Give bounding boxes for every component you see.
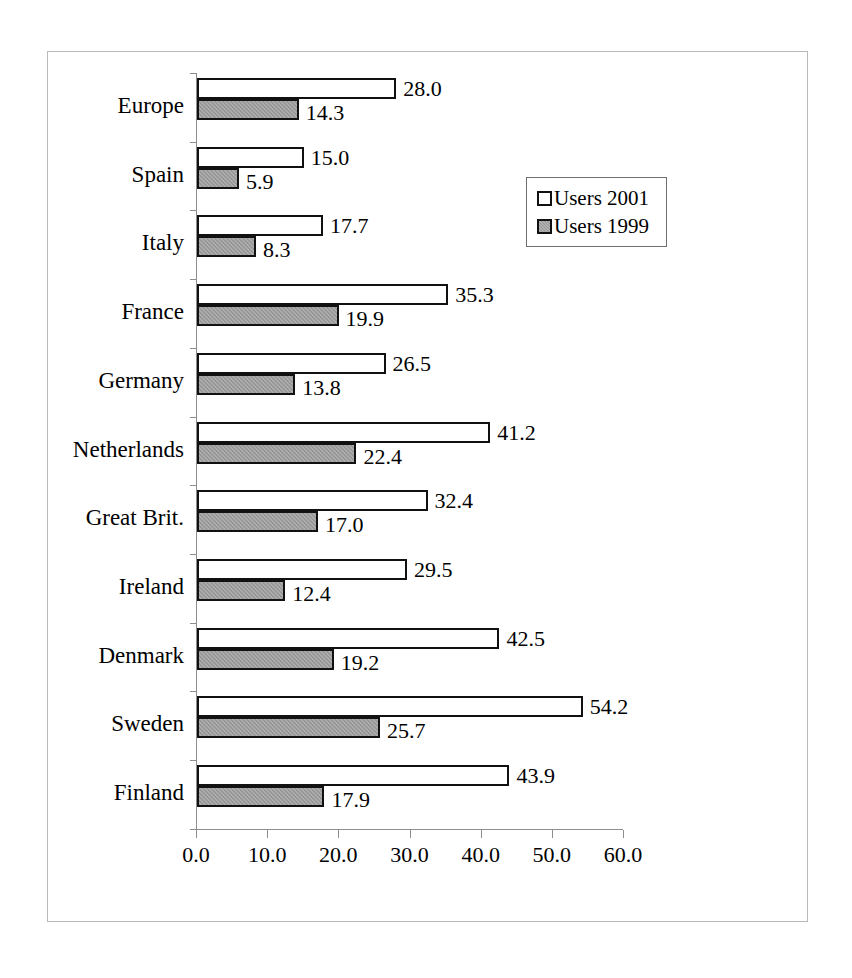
bar-users-1999 <box>197 305 339 326</box>
bar-value-label-users-2001: 43.9 <box>516 764 555 788</box>
legend-swatch-icon-users-1999 <box>537 219 552 234</box>
category-label: Netherlands <box>0 435 184 465</box>
bar-users-2001 <box>197 559 407 580</box>
bar-value-label-users-1999: 22.4 <box>363 445 402 469</box>
bar-value-label-users-2001: 29.5 <box>414 558 453 582</box>
bar-value-label-users-2001: 42.5 <box>506 627 545 651</box>
category-label: France <box>0 297 184 327</box>
bar-value-label-users-2001: 26.5 <box>393 352 432 376</box>
bar-value-label-users-2001: 41.2 <box>497 421 536 445</box>
x-axis-tick-label: 50.0 <box>522 842 582 868</box>
bar-users-1999 <box>197 580 285 601</box>
bar-users-1999 <box>197 374 295 395</box>
x-axis-tick <box>338 830 339 838</box>
x-axis-tick <box>481 830 482 838</box>
bar-group: Denmark42.519.2 <box>48 623 809 691</box>
bar-value-label-users-1999: 8.3 <box>263 238 291 262</box>
bar-value-label-users-2001: 32.4 <box>435 489 474 513</box>
x-axis-tick <box>623 830 624 838</box>
x-axis-tick <box>196 830 197 838</box>
category-label: Denmark <box>0 641 184 671</box>
bar-value-label-users-1999: 17.0 <box>325 513 364 537</box>
bar-group: Great Brit.32.417.0 <box>48 485 809 553</box>
bar-group: Europe28.014.3 <box>48 73 809 141</box>
chart-legend: Users 2001 Users 1999 <box>526 177 667 247</box>
bar-users-2001 <box>197 628 499 649</box>
category-label: Ireland <box>0 572 184 602</box>
bar-value-label-users-2001: 28.0 <box>403 77 442 101</box>
plot-area: 0.010.020.030.040.050.060.0 Europe28.014… <box>48 52 809 923</box>
x-axis-tick <box>552 830 553 838</box>
bar-value-label-users-1999: 25.7 <box>387 719 426 743</box>
bar-users-1999 <box>197 236 256 257</box>
legend-label-users-1999: Users 1999 <box>554 215 649 237</box>
bar-users-2001 <box>197 422 490 443</box>
category-label: Sweden <box>0 709 184 739</box>
bar-users-1999 <box>197 717 380 738</box>
bar-users-2001 <box>197 765 509 786</box>
bar-value-label-users-1999: 19.9 <box>346 307 385 331</box>
bar-users-1999 <box>197 511 318 532</box>
bar-group: Italy17.78.3 <box>48 210 809 278</box>
bar-users-2001 <box>197 147 304 168</box>
legend-item-users-2001: Users 2001 <box>537 184 666 212</box>
bar-users-1999 <box>197 649 334 670</box>
bar-users-2001 <box>197 215 323 236</box>
bar-value-label-users-2001: 54.2 <box>590 695 629 719</box>
x-axis-tick-label: 20.0 <box>308 842 368 868</box>
x-axis-tick <box>410 830 411 838</box>
category-label: Italy <box>0 228 184 258</box>
bar-value-label-users-1999: 12.4 <box>292 582 331 606</box>
x-axis-tick-label: 60.0 <box>593 842 653 868</box>
bar-group: Germany26.513.8 <box>48 348 809 416</box>
category-label: Finland <box>0 778 184 808</box>
bar-group: France35.319.9 <box>48 279 809 347</box>
chart-frame: 0.010.020.030.040.050.060.0 Europe28.014… <box>47 51 808 922</box>
bar-value-label-users-2001: 15.0 <box>311 146 350 170</box>
bar-users-2001 <box>197 284 448 305</box>
category-label: Spain <box>0 160 184 190</box>
x-axis-tick-label: 40.0 <box>451 842 511 868</box>
bar-value-label-users-1999: 17.9 <box>331 788 370 812</box>
x-axis-tick-label: 30.0 <box>380 842 440 868</box>
bar-value-label-users-2001: 17.7 <box>330 214 369 238</box>
x-axis-tick-label: 10.0 <box>237 842 297 868</box>
bar-users-1999 <box>197 99 299 120</box>
category-label: Europe <box>0 91 184 121</box>
x-axis-tick <box>267 830 268 838</box>
x-axis-tick-label: 0.0 <box>166 842 226 868</box>
bar-value-label-users-1999: 19.2 <box>341 651 380 675</box>
bar-group: Spain15.05.9 <box>48 142 809 210</box>
category-label: Germany <box>0 366 184 396</box>
bar-value-label-users-1999: 13.8 <box>302 376 341 400</box>
bar-group: Netherlands41.222.4 <box>48 417 809 485</box>
bar-users-1999 <box>197 443 356 464</box>
bar-group: Ireland29.512.4 <box>48 554 809 622</box>
bar-group: Sweden54.225.7 <box>48 691 809 759</box>
bar-users-2001 <box>197 78 396 99</box>
bar-value-label-users-1999: 5.9 <box>246 170 274 194</box>
bar-users-1999 <box>197 168 239 189</box>
legend-swatch-icon-users-2001 <box>537 191 552 206</box>
bar-users-2001 <box>197 490 428 511</box>
bar-users-1999 <box>197 786 324 807</box>
legend-item-users-1999: Users 1999 <box>537 212 666 240</box>
bar-value-label-users-2001: 35.3 <box>455 283 494 307</box>
legend-label-users-2001: Users 2001 <box>554 187 649 209</box>
bar-users-2001 <box>197 696 583 717</box>
category-label: Great Brit. <box>0 503 184 533</box>
bar-users-2001 <box>197 353 386 374</box>
bar-value-label-users-1999: 14.3 <box>306 101 345 125</box>
bar-group: Finland43.917.9 <box>48 760 809 828</box>
